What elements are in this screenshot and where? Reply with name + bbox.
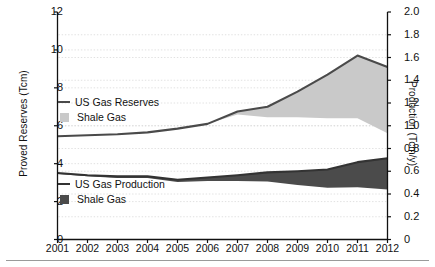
square-swatch-icon <box>60 113 69 122</box>
legend-production: US Gas Production Shale Gas <box>58 177 165 206</box>
y-axis-left-tick-label: 4 <box>23 158 63 169</box>
line-marker-icon <box>58 183 70 185</box>
line-marker-icon <box>58 101 70 103</box>
square-swatch-icon <box>60 195 69 204</box>
y-axis-left-tick-label: 2 <box>23 196 63 207</box>
y-axis-right-tick-label: 0.2 <box>404 211 435 222</box>
chart-figure: Proved Reserves (Tcm) Production (Tcm/y)… <box>0 0 435 267</box>
legend-label-production-shale-gas: Shale Gas <box>77 194 126 205</box>
legend-item-us-gas-production: US Gas Production <box>58 177 165 191</box>
y-axis-right-tick-label: 1.6 <box>404 52 435 63</box>
y-axis-right-tick-label: 0 <box>404 234 435 245</box>
legend-label-us-gas-reserves: US Gas Reserves <box>75 97 159 108</box>
legend-item-production-shale-gas: Shale Gas <box>58 192 165 206</box>
y-axis-right-tick-label: 1.8 <box>404 29 435 40</box>
y-axis-right-tick-label: 1.0 <box>404 120 435 131</box>
legend-item-reserves-shale-gas: Shale Gas <box>58 110 159 124</box>
legend-label-reserves-shale-gas: Shale Gas <box>77 112 126 123</box>
y-axis-left-tick-label: 12 <box>23 6 63 17</box>
y-axis-right-tick-label: 1.2 <box>404 97 435 108</box>
legend-reserves: US Gas Reserves Shale Gas <box>58 95 159 124</box>
chart-plot-area <box>0 0 435 267</box>
x-axis-tick-label: 2012 <box>368 243 408 254</box>
y-axis-right-tick-label: 0.8 <box>404 143 435 154</box>
legend-item-us-gas-reserves: US Gas Reserves <box>58 95 159 109</box>
y-axis-left-tick-label: 10 <box>23 44 63 55</box>
y-axis-left-tick-label: 6 <box>23 120 63 131</box>
y-axis-right-tick-label: 0.4 <box>404 188 435 199</box>
y-axis-right-tick-label: 0.6 <box>404 165 435 176</box>
y-axis-right-tick-label: 2.0 <box>404 6 435 17</box>
legend-label-us-gas-production: US Gas Production <box>75 179 165 190</box>
bottom-divider <box>6 260 429 261</box>
y-axis-right-tick-label: 1.4 <box>404 74 435 85</box>
y-axis-left-tick-label: 8 <box>23 82 63 93</box>
